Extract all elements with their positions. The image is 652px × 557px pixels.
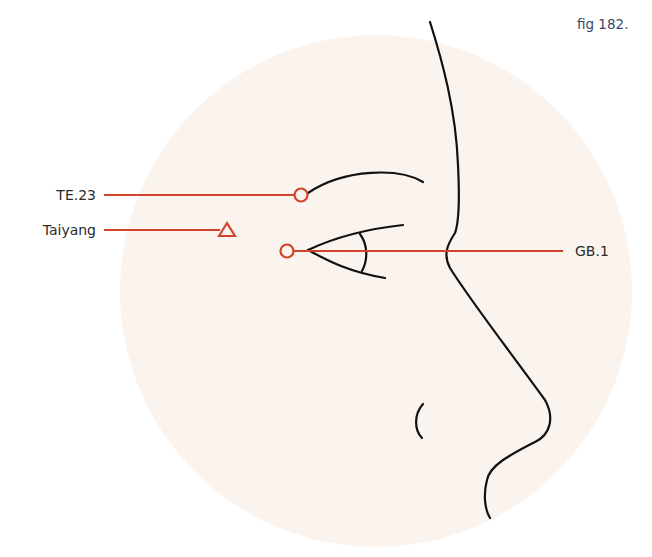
- gb1-label: GB.1: [575, 243, 609, 259]
- figure-caption: fig 182.: [577, 16, 628, 32]
- taiyang-label: Taiyang: [42, 222, 96, 238]
- gb1-circle-marker: [281, 245, 294, 258]
- background-disc: [120, 35, 632, 547]
- te23-circle-marker: [295, 189, 308, 202]
- te23-label: TE.23: [55, 187, 96, 203]
- acupuncture-figure: fig 182. TE.23 Taiyang GB.1: [0, 0, 652, 557]
